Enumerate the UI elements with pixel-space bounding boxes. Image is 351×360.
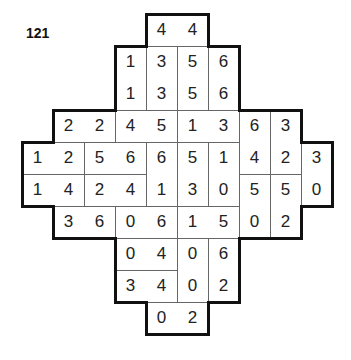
grid-outline — [300, 141, 334, 144]
grid-outline — [238, 109, 272, 112]
domino — [146, 14, 209, 47]
domino — [53, 206, 116, 239]
grid-outline — [52, 237, 86, 240]
puzzle-number: 121 — [26, 25, 49, 41]
grid-outline — [238, 237, 272, 240]
grid-outline — [238, 237, 241, 272]
grid-outline — [269, 237, 303, 240]
grid-outline — [300, 205, 334, 208]
grid-outline — [114, 77, 117, 112]
grid-outline — [207, 301, 210, 336]
grid-outline — [21, 205, 55, 208]
domino — [84, 174, 147, 207]
domino — [208, 142, 240, 207]
grid-outline — [145, 13, 148, 48]
grid-outline — [207, 13, 210, 48]
domino — [301, 142, 333, 207]
domino — [270, 174, 302, 239]
grid-outline — [300, 109, 303, 144]
grid-outline — [207, 45, 241, 48]
grid-outline — [207, 301, 241, 304]
domino — [239, 110, 271, 175]
grid-outline — [52, 109, 55, 144]
grid-outline — [52, 205, 55, 240]
grid-outline — [52, 109, 86, 112]
grid-outline — [176, 13, 210, 16]
grid-outline — [145, 301, 148, 336]
domino — [270, 110, 302, 175]
grid-outline — [238, 45, 241, 80]
domino — [22, 142, 85, 175]
domino — [115, 206, 178, 239]
grid-outline — [114, 301, 148, 304]
domino — [177, 110, 240, 143]
domino — [115, 110, 178, 143]
grid-outline — [300, 205, 303, 240]
grid-outline — [21, 173, 24, 208]
grid-outline — [114, 45, 148, 48]
domino — [115, 270, 178, 303]
grid-outline — [269, 109, 303, 112]
domino — [146, 142, 178, 207]
domino — [22, 174, 85, 207]
domino — [208, 46, 240, 111]
grid-outline — [21, 141, 55, 144]
grid-outline — [176, 333, 210, 336]
domino — [239, 174, 271, 239]
domino — [53, 110, 116, 143]
domino — [208, 238, 240, 303]
domino — [146, 302, 209, 335]
domino — [177, 46, 209, 111]
grid-outline — [114, 237, 117, 272]
grid-outline — [238, 269, 241, 304]
grid-outline — [21, 141, 24, 176]
domino — [84, 142, 147, 175]
grid-outline — [145, 333, 179, 336]
domino — [177, 142, 209, 207]
domino — [115, 46, 147, 111]
domino — [115, 238, 178, 271]
grid-outline — [331, 141, 334, 176]
grid-outline — [83, 109, 117, 112]
domino — [177, 206, 240, 239]
grid-outline — [331, 173, 334, 208]
grid-outline — [238, 77, 241, 112]
domino — [177, 238, 209, 303]
grid-outline — [114, 45, 117, 80]
grid-outline — [83, 237, 117, 240]
domino — [146, 46, 178, 111]
grid-outline — [114, 269, 117, 304]
grid-outline — [145, 13, 179, 16]
